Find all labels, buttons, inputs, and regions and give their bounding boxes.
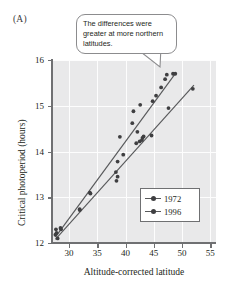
legend-marker-icon	[145, 207, 161, 216]
data-point	[118, 135, 122, 139]
data-point	[130, 121, 134, 125]
data-point	[135, 130, 139, 134]
data-point	[167, 106, 171, 110]
data-point	[142, 135, 146, 139]
data-point	[173, 72, 177, 76]
x-tick-label: 35	[93, 249, 102, 258]
x-tick-label: 50	[178, 249, 187, 258]
panel-label: (A)	[13, 14, 27, 24]
y-tick-label: 12	[0, 239, 44, 248]
x-tick-label: 45	[149, 249, 158, 258]
x-tick-label: 30	[64, 249, 73, 258]
data-point	[132, 109, 136, 113]
data-point	[54, 227, 58, 231]
data-point	[78, 208, 82, 212]
data-point	[116, 175, 120, 179]
data-point	[151, 99, 155, 103]
data-point	[159, 86, 163, 90]
y-tick-label: 14	[0, 147, 44, 156]
x-axis-title: Altitude-corrected latitude	[52, 267, 216, 277]
y-tick-label: 16	[0, 56, 44, 65]
y-tick-label: 13	[0, 193, 44, 202]
data-point	[138, 103, 142, 107]
data-point	[140, 138, 144, 142]
legend-marker-icon	[145, 194, 161, 203]
data-point	[115, 179, 119, 183]
data-point	[191, 87, 195, 91]
data-point	[121, 153, 125, 157]
data-point	[55, 231, 59, 235]
data-point	[59, 227, 63, 231]
data-point	[134, 141, 138, 145]
data-point	[165, 73, 169, 77]
legend-item[interactable]: 1972	[145, 192, 199, 205]
data-point	[116, 160, 120, 164]
y-tick-label: 15	[0, 101, 44, 110]
data-point	[56, 237, 60, 241]
x-tick-label: 55	[206, 249, 215, 258]
callout-annotation: The differences were greater at more nor…	[76, 14, 177, 54]
legend-label: 1972	[161, 194, 181, 204]
data-point	[150, 134, 154, 138]
data-point	[154, 94, 158, 98]
legend-label: 1996	[161, 207, 181, 217]
legend: 1972 1996	[140, 188, 200, 222]
x-tick-label: 40	[121, 249, 130, 258]
data-point	[89, 192, 93, 196]
y-axis-title: Critical photoperiod (hours)	[17, 119, 27, 226]
data-point	[163, 77, 167, 81]
chart-figure: (A) Critical photoperiod (hours) Altitud…	[0, 0, 230, 291]
legend-item[interactable]: 1996	[145, 205, 199, 218]
data-point	[114, 170, 118, 174]
